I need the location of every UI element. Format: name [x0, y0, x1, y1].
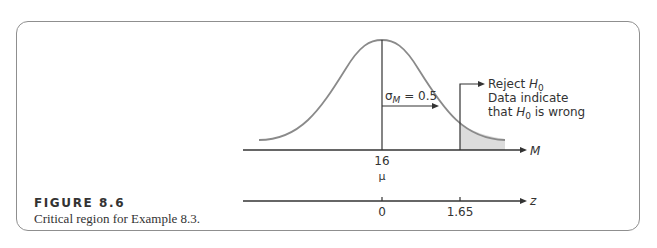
z-tick-0-label: 0	[378, 205, 386, 219]
z-axis-label: z	[529, 194, 537, 208]
sigma-label: σM = 0.5	[385, 89, 437, 105]
sigma-arrow-head-icon	[432, 103, 439, 109]
reject-arrow-head-icon	[478, 81, 485, 87]
z-tick-crit-label: 1.65	[447, 205, 474, 219]
m-tick-label: 16	[374, 154, 389, 168]
figure-caption: Critical region for Example 8.3.	[34, 211, 200, 227]
mu-label: μ	[379, 170, 386, 183]
m-axis-label: M	[530, 144, 541, 158]
z-axis-arrow-icon	[520, 198, 527, 204]
m-axis-arrow-icon	[520, 147, 527, 153]
reject-label-line3: that H0 is wrong	[488, 105, 585, 121]
reject-label-line2: Data indicate	[488, 91, 568, 105]
figure-title: FIGURE 8.6	[34, 196, 125, 210]
